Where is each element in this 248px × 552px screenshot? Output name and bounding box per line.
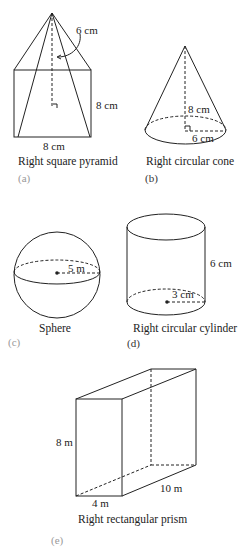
cylinder-radius-label: 3 cm — [172, 288, 194, 300]
solids-diagram — [0, 0, 248, 552]
sphere-radius-label: 5 m — [68, 262, 85, 274]
pyramid-caption: Right square pyramid — [18, 155, 118, 167]
pyramid-base-label: 8 cm — [43, 140, 65, 152]
cylinder-height-label: 6 cm — [210, 257, 232, 269]
cone-caption: Right circular cone — [146, 155, 234, 167]
prism-width-label: 4 m — [92, 497, 109, 509]
figure-tag-a: (a) — [18, 172, 30, 184]
figure-tag-e: (e) — [51, 534, 63, 546]
prism-shape — [76, 369, 196, 496]
cone-radius-label: 6 cm — [192, 132, 214, 144]
pyramid-slant-label: 6 cm — [76, 24, 98, 36]
prism-caption: Right rectangular prism — [78, 513, 187, 525]
sphere-caption: Sphere — [39, 322, 71, 334]
figure-tag-b: (b) — [145, 172, 158, 184]
figure-tag-d: (d) — [127, 337, 140, 349]
cone-shape — [145, 46, 226, 144]
figure-tag-c: (c) — [8, 336, 20, 348]
prism-depth-label: 10 m — [160, 482, 182, 494]
pyramid-height-label: 8 cm — [96, 99, 118, 111]
sphere-shape — [14, 232, 100, 318]
cone-height-label: 8 cm — [188, 103, 210, 115]
prism-height-label: 8 m — [56, 436, 73, 448]
cylinder-caption: Right circular cylinder — [133, 322, 237, 334]
